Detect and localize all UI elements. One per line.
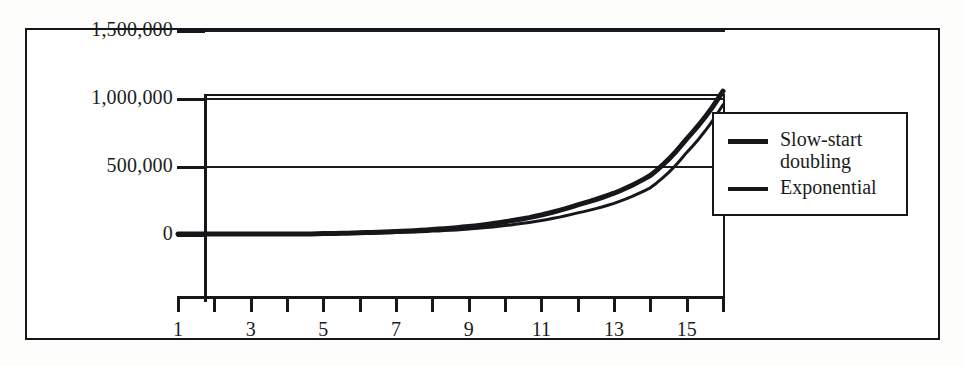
y-tick-label-wrap: 1,000,000 [27, 86, 173, 110]
x-tick-mark [322, 298, 325, 312]
x-tick-mark [395, 298, 398, 312]
gridline-500000 [205, 166, 725, 168]
x-tick-label: 13 [594, 318, 634, 341]
x-tick-mark [213, 298, 216, 312]
y-tick-label-wrap: 1,500,000 [27, 18, 173, 42]
legend-item-label: Slow-start doubling [780, 128, 862, 173]
x-tick-mark [577, 298, 580, 312]
x-tick-mark [468, 298, 471, 312]
legend-line-swatch-icon [728, 139, 768, 144]
x-axis-line [177, 296, 725, 299]
y-tick-mark [177, 234, 205, 237]
plot-top-border [205, 94, 725, 96]
legend-item-slow-start-doubling: Slow-start doubling [728, 128, 862, 173]
x-tick-label: 1 [158, 318, 198, 341]
legend-item-exponential: Exponential [728, 176, 877, 198]
legend-item-label: Exponential [780, 176, 877, 198]
x-tick-label: 5 [303, 318, 343, 341]
x-tick-mark [686, 298, 689, 312]
x-tick-label: 3 [231, 318, 271, 341]
x-tick-mark [722, 298, 725, 312]
x-tick-mark [177, 298, 180, 312]
series-line-exponential [178, 105, 723, 234]
x-tick-mark [359, 298, 362, 312]
gridline-1500000 [205, 30, 725, 32]
y-tick-label-wrap: 0 [27, 222, 173, 246]
y-tick-label: 0 [163, 222, 173, 245]
y-axis-line [204, 94, 207, 302]
y-tick-label-wrap: 500,000 [27, 154, 173, 178]
x-tick-mark [286, 298, 289, 312]
legend-line-swatch-icon [728, 187, 768, 191]
y-tick-mark [177, 98, 205, 101]
x-tick-label: 11 [521, 318, 561, 341]
x-tick-mark [250, 298, 253, 312]
x-tick-label: 7 [376, 318, 416, 341]
y-tick-mark [177, 166, 205, 169]
series-line-slow-start-doubling [178, 91, 723, 234]
legend: Slow-start doubling Exponential [712, 112, 908, 216]
x-tick-mark [431, 298, 434, 312]
x-tick-mark [540, 298, 543, 312]
x-tick-mark [613, 298, 616, 312]
y-tick-label: 500,000 [107, 154, 173, 177]
figure-frame: 1,500,000 1,000,000 500,000 0 1357911131… [25, 28, 940, 340]
y-tick-label: 1,000,000 [91, 86, 173, 109]
x-tick-label: 15 [667, 318, 707, 341]
x-tick-mark [504, 298, 507, 312]
y-tick-mark [177, 30, 205, 33]
y-tick-label: 1,500,000 [91, 18, 173, 41]
x-tick-label: 9 [449, 318, 489, 341]
x-tick-mark [649, 298, 652, 312]
figure-page: 1,500,000 1,000,000 500,000 0 1357911131… [0, 0, 964, 366]
gridline-1000000 [205, 98, 725, 100]
